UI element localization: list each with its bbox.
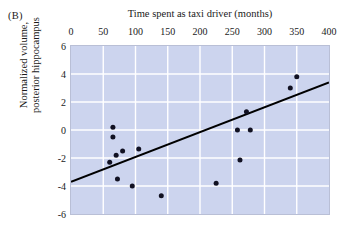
y-axis-title-line2: posterior hippocampus — [30, 17, 42, 113]
y-axis-title: Normalized volume, posterior hippocampus — [15, 0, 45, 150]
data-point — [136, 146, 141, 151]
data-point — [237, 158, 242, 163]
y-tick-label: 4 — [61, 69, 66, 80]
data-point — [288, 86, 293, 91]
y-tick-label: -2 — [58, 153, 66, 164]
data-point — [235, 128, 240, 133]
x-tick-label: 100 — [128, 26, 143, 37]
x-tick-label: 150 — [160, 26, 175, 37]
data-point — [110, 125, 115, 130]
y-axis-title-line1: Normalized volume, — [18, 17, 30, 113]
x-axis-tick-labels: 050100150200250300350400 — [70, 26, 330, 40]
data-point — [110, 135, 115, 140]
y-axis-tick-labels: 6420-2-4-6 — [44, 45, 66, 215]
data-point — [159, 193, 164, 198]
data-point — [244, 109, 249, 114]
x-tick-label: 300 — [257, 26, 272, 37]
x-tick-label: 250 — [225, 26, 240, 37]
x-tick-label: 0 — [69, 26, 74, 37]
x-axis-title: Time spent as taxi driver (months) — [70, 8, 330, 19]
x-tick-label: 350 — [289, 26, 304, 37]
data-point — [294, 74, 299, 79]
x-tick-label: 400 — [322, 26, 337, 37]
y-tick-label: 2 — [61, 97, 66, 108]
panel-label: (B) — [8, 10, 23, 21]
y-tick-label: 0 — [61, 125, 66, 136]
plot-canvas — [71, 46, 329, 214]
data-point — [120, 149, 125, 154]
data-point — [130, 184, 135, 189]
data-point — [248, 128, 253, 133]
y-tick-label: -4 — [58, 181, 66, 192]
plot-area — [70, 45, 330, 215]
figure-panel-b: (B) Time spent as taxi driver (months) 0… — [0, 0, 342, 227]
data-point — [107, 160, 112, 165]
data-point — [115, 177, 120, 182]
data-point — [114, 153, 119, 158]
x-tick-label: 50 — [98, 26, 108, 37]
y-tick-label: 6 — [61, 41, 66, 52]
y-tick-label: -6 — [58, 209, 66, 220]
data-point — [214, 181, 219, 186]
x-tick-label: 200 — [193, 26, 208, 37]
